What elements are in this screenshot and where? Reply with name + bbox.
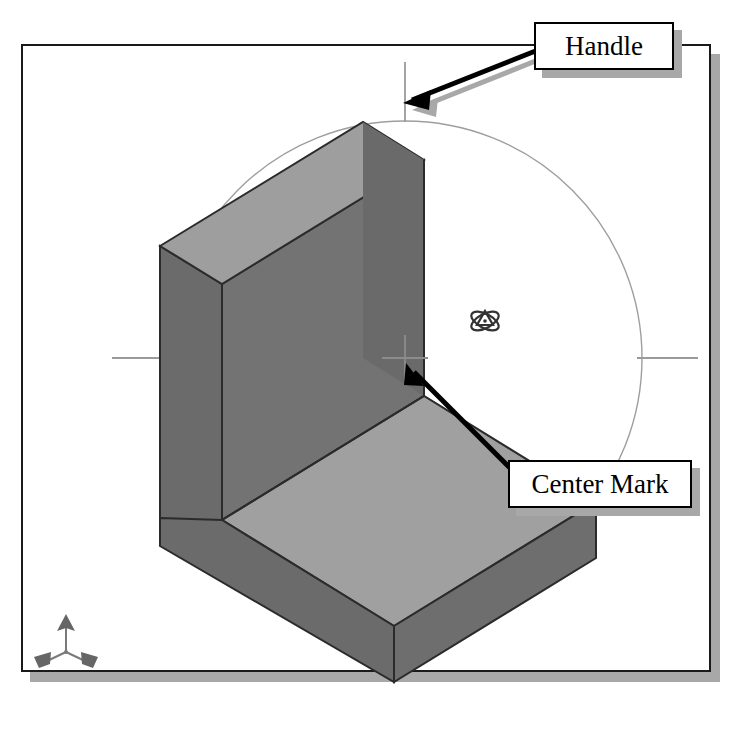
orbit-center-dot bbox=[483, 319, 487, 323]
leader-arrow-handle-shaft bbox=[412, 50, 538, 100]
triad-axis-y-arrowhead bbox=[81, 652, 98, 668]
callout-handle-label: Handle bbox=[565, 31, 643, 62]
callout-handle[interactable]: Handle bbox=[534, 22, 674, 70]
rotate-orbit-cursor-icon[interactable] bbox=[464, 300, 506, 342]
orbit-center-triangle bbox=[477, 311, 493, 325]
viewport-scene bbox=[0, 0, 744, 743]
l-shaped-block[interactable] bbox=[160, 122, 596, 682]
triad-origin-dot bbox=[64, 650, 68, 654]
block-face-wall-right-end[interactable] bbox=[363, 122, 424, 396]
screenshot-root: Handle Center Mark bbox=[0, 0, 744, 743]
callout-center-mark-label: Center Mark bbox=[531, 469, 668, 500]
triad-axis-x-arrowhead bbox=[34, 652, 51, 668]
leader-arrow-handle-head bbox=[403, 90, 431, 110]
axis-triad-icon[interactable] bbox=[30, 612, 102, 674]
callout-center-mark[interactable]: Center Mark bbox=[508, 460, 692, 508]
block-face-left-side[interactable] bbox=[160, 246, 222, 556]
leader-arrow-handle bbox=[403, 50, 543, 117]
